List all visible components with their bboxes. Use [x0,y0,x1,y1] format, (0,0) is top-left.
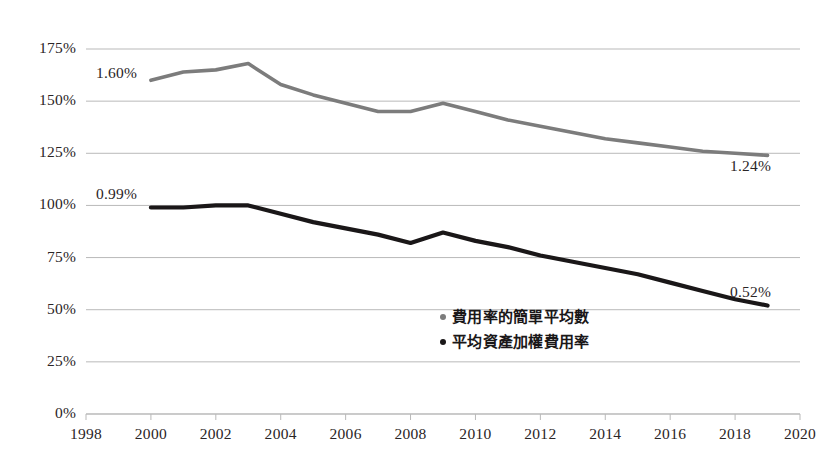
x-axis-ticks-group [86,414,800,420]
y-axis-tick-label: 150% [0,91,76,109]
y-axis-tick-label: 0% [0,404,76,422]
y-axis-tick-label: 125% [0,143,76,161]
legend-label: 平均資產加權費用率 [452,333,590,351]
y-axis-tick-label: 100% [0,195,76,213]
legend-item-simple-average[interactable]: 費用率的簡單平均數 [438,306,590,328]
x-axis-tick-label: 2020 [760,425,827,443]
y-axis-tick-label: 75% [0,248,76,266]
y-axis-tick-label: 25% [0,352,76,370]
legend-marker-icon [440,314,446,320]
series-line [151,205,768,305]
label-gray-series-start: 1.60% [96,64,137,82]
chart-container: 0%25%50%75%100%125%150%175% 199820002002… [0,0,827,465]
label-gray-series-end: 1.24% [730,157,771,175]
data-series-group [151,64,768,306]
label-black-series-end: 0.52% [730,283,771,301]
legend-item-asset-weighted[interactable]: 平均資產加權費用率 [438,331,590,353]
y-axis-tick-label: 50% [0,300,76,318]
chart-legend: 費用率的簡單平均數 平均資產加權費用率 [438,306,590,353]
legend-label: 費用率的簡單平均數 [452,308,590,326]
label-black-series-start: 0.99% [96,185,137,203]
series-line [151,64,768,156]
legend-marker-icon [440,339,446,345]
y-axis-tick-label: 175% [0,39,76,57]
